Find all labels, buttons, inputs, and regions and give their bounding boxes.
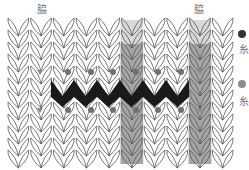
legend-label-gray-yarn: 糸 (239, 97, 249, 107)
stitch-grid (0, 0, 240, 170)
legend-dot-black-icon (238, 30, 246, 38)
legend-dot-gray-icon (238, 80, 246, 88)
legend-label-black-yarn: 糸 (239, 45, 249, 55)
